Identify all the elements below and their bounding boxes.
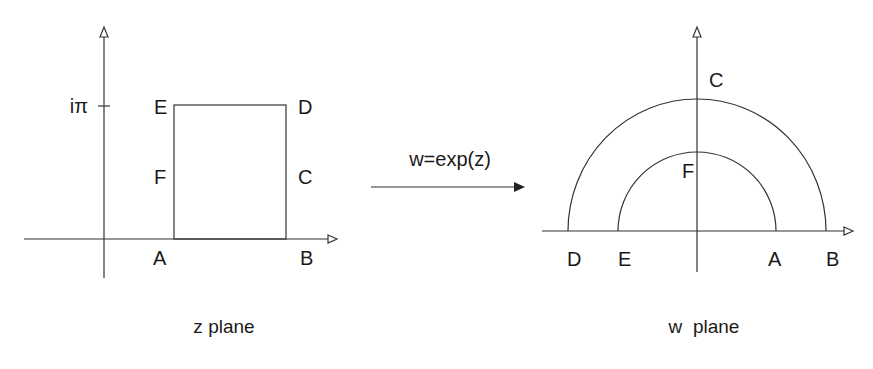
z-plane: iπ E D F C A B z plane (24, 27, 337, 337)
z-rectangle-region (174, 105, 286, 239)
z-label-B: B (300, 247, 313, 269)
mapping-formula: w=exp(z) (408, 148, 491, 170)
z-real-axis-arrowhead-icon (328, 235, 337, 243)
z-label-C: C (298, 166, 312, 188)
w-plane: C F D E A B w plane (542, 27, 853, 337)
z-plane-caption: z plane (193, 316, 254, 337)
w-label-B: B (826, 248, 839, 270)
w-real-axis-arrowhead-icon (844, 227, 853, 235)
w-label-F: F (682, 160, 694, 182)
w-label-C: C (709, 69, 723, 91)
z-imag-axis-arrowhead-icon (100, 27, 108, 37)
w-label-D: D (567, 248, 581, 270)
right-arrow-icon (514, 182, 525, 192)
conformal-map-diagram: iπ E D F C A B z plane w=exp(z) C F D E … (0, 0, 873, 369)
i-pi-label: iπ (70, 95, 88, 117)
w-label-A: A (768, 248, 782, 270)
z-label-D: D (298, 96, 312, 118)
z-label-A: A (153, 247, 167, 269)
w-imag-axis-arrowhead-icon (693, 27, 701, 37)
w-label-E: E (618, 248, 631, 270)
z-label-F: F (154, 166, 166, 188)
w-plane-caption: w plane (668, 316, 740, 337)
mapping: w=exp(z) (371, 148, 525, 192)
z-label-E: E (154, 96, 167, 118)
